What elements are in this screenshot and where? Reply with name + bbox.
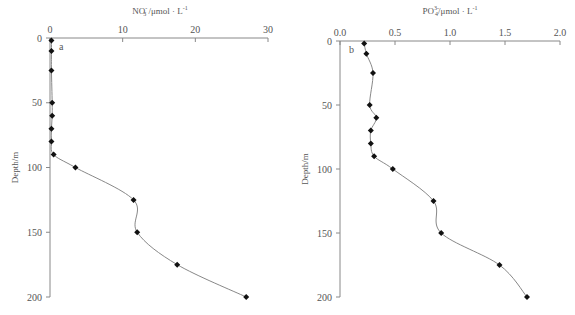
x-tick-label: 20	[190, 24, 200, 35]
x-tick-label: 2.0	[554, 27, 567, 38]
data-line	[51, 41, 246, 297]
data-point-marker	[373, 115, 379, 121]
y-axis-title: Depth/m	[10, 152, 20, 184]
panel-label: b	[349, 44, 354, 55]
x-tick-label: 1.0	[444, 27, 457, 38]
data-point-marker	[363, 51, 369, 57]
data-line	[364, 44, 527, 297]
y-tick-label: 200	[27, 292, 42, 303]
data-point-marker	[367, 102, 373, 108]
x-tick-label: 1.5	[499, 27, 512, 38]
data-point-marker	[243, 294, 249, 300]
y-tick-label: 0	[327, 36, 332, 47]
data-point-marker	[48, 139, 54, 145]
y-tick-label: 150	[317, 228, 332, 239]
y-axis-title: Depth/m	[300, 153, 310, 185]
x-axis-title: PO3-4/μmol · L-1	[423, 5, 478, 17]
y-tick-label: 50	[32, 97, 42, 108]
y-tick-label: 0	[37, 33, 42, 44]
y-tick-label: 150	[27, 227, 42, 238]
y-tick-label: 100	[27, 162, 42, 173]
x-tick-label: 0.5	[389, 27, 402, 38]
data-point-marker	[48, 48, 54, 54]
x-tick-label: 0	[48, 24, 53, 35]
y-tick-label: 200	[317, 292, 332, 303]
x-tick-label: 30	[263, 24, 273, 35]
data-point-marker	[48, 67, 54, 73]
x-tick-label: 0.0	[334, 27, 347, 38]
x-tick-label: 10	[118, 24, 128, 35]
chart-canvas: 0102030050100150200NO-3 /μmol · L-1Depth…	[0, 0, 575, 315]
chart-panel-b: 0.00.51.01.52.0050100150200PO3-4/μmol · …	[300, 5, 566, 303]
panel-label: a	[59, 41, 64, 52]
data-point-marker	[368, 128, 374, 134]
data-point-marker	[174, 262, 180, 268]
chart-panel-a: 0102030050100150200NO-3 /μmol · L-1Depth…	[10, 5, 273, 303]
y-tick-label: 100	[317, 164, 332, 175]
data-point-marker	[368, 140, 374, 146]
data-point-marker	[48, 126, 54, 132]
y-tick-label: 50	[322, 100, 332, 111]
data-point-marker	[370, 70, 376, 76]
x-axis-title: NO-3 /μmol · L-1	[132, 5, 188, 17]
data-point-marker	[72, 165, 78, 171]
